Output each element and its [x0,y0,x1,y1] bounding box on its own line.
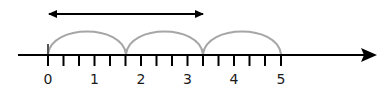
label-5: 5 [277,71,286,87]
label-0: 0 [44,71,53,87]
tick-labels: 0 1 2 3 4 5 [44,71,286,87]
label-3: 3 [183,71,192,87]
label-4: 4 [230,71,239,87]
jump-arc-2 [126,32,203,55]
number-line-diagram: 0 1 2 3 4 5 [0,0,388,92]
tick-marks [48,55,281,66]
jump-arc-1 [48,32,126,55]
label-1: 1 [90,71,99,87]
label-2: 2 [137,71,146,87]
jump-arcs [48,32,281,55]
jump-arc-3 [203,32,281,55]
